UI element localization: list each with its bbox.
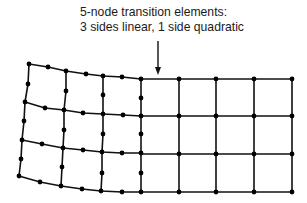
node [80, 187, 85, 192]
node [100, 150, 105, 155]
node [252, 114, 257, 119]
node [22, 119, 27, 124]
node [177, 190, 182, 195]
node [23, 100, 28, 105]
node [252, 77, 257, 82]
node [139, 171, 144, 176]
node [81, 148, 86, 153]
node [214, 152, 219, 157]
node [84, 72, 89, 77]
node [19, 157, 24, 162]
node [46, 65, 51, 70]
node [252, 152, 257, 157]
node [99, 189, 104, 194]
node [62, 128, 67, 133]
node [177, 152, 182, 157]
node [120, 151, 125, 156]
quadratic-element-edges [19, 64, 141, 192]
node [60, 165, 65, 170]
node [64, 89, 69, 94]
node [101, 132, 106, 137]
node [101, 74, 106, 79]
node [26, 82, 31, 87]
node [139, 114, 144, 119]
node [214, 77, 219, 82]
node [61, 146, 66, 151]
node [20, 138, 25, 143]
node [139, 190, 144, 195]
node [290, 114, 295, 119]
arrow-head-icon [155, 67, 161, 75]
node [139, 77, 144, 82]
linear-element-edges [141, 79, 292, 192]
node [43, 106, 48, 111]
pointer-arrow [155, 41, 161, 75]
node [64, 69, 69, 74]
node [100, 171, 105, 176]
node [214, 190, 219, 195]
node [252, 190, 257, 195]
node [214, 114, 219, 119]
node [40, 142, 45, 147]
node [290, 152, 295, 157]
node [120, 75, 125, 80]
mesh-nodes [17, 62, 295, 195]
node [27, 62, 32, 67]
finite-element-mesh [0, 0, 307, 203]
node [59, 184, 64, 189]
node [38, 180, 43, 185]
node [139, 132, 144, 137]
node [290, 77, 295, 82]
node [101, 112, 106, 117]
node [139, 151, 144, 156]
node [290, 190, 295, 195]
node [177, 114, 182, 119]
node [101, 93, 106, 98]
node [139, 96, 144, 101]
node [120, 190, 125, 195]
node [17, 174, 22, 179]
node [121, 113, 126, 118]
node [62, 108, 67, 113]
node [81, 111, 86, 116]
node [177, 77, 182, 82]
